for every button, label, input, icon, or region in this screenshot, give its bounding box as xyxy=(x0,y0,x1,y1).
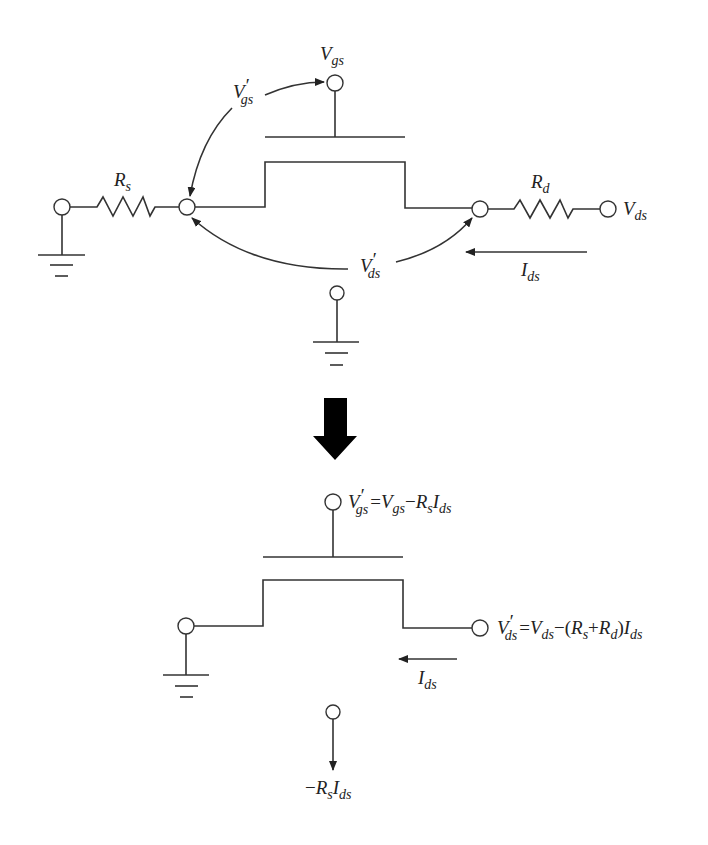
gate-node-equivalent xyxy=(325,494,341,510)
vds-label: Vds xyxy=(623,198,648,223)
vds-terminal-node xyxy=(600,201,616,217)
vgs-label: Vgs xyxy=(320,43,345,68)
top-circuit: Rs Vgs V′gs V′ds Rd Vds Ids xyxy=(38,43,648,365)
ids-label-equivalent: Ids xyxy=(417,667,437,692)
left-ground-symbol xyxy=(38,215,85,276)
body-voltage-label: −RsIds xyxy=(305,777,352,802)
source-node xyxy=(179,199,195,215)
vgs-prime-equation: V′gs=Vgs−RsIds xyxy=(348,485,452,517)
left-terminal-node xyxy=(54,199,70,215)
rd-label: Rd xyxy=(530,171,551,196)
gate-node xyxy=(327,75,343,91)
vgs-prime-arrow-to-gate xyxy=(265,82,324,95)
source-ground-symbol xyxy=(163,634,209,697)
drain-resistor xyxy=(488,200,600,218)
body-ground-symbol xyxy=(313,300,359,365)
mosfet-diagram: Rs Vgs V′gs V′ds Rd Vds Ids xyxy=(0,0,708,845)
source-node-equivalent xyxy=(178,618,194,634)
body-node-equivalent xyxy=(326,705,340,719)
drain-node-equivalent xyxy=(472,620,488,636)
rs-label: Rs xyxy=(113,169,132,194)
vgs-prime-label: V′gs xyxy=(233,75,254,107)
vds-prime-label: V′ds xyxy=(360,249,381,281)
vgs-prime-arrow-to-source xyxy=(190,108,232,196)
vds-prime-arrow-to-drain xyxy=(396,218,472,262)
drain-node xyxy=(472,201,488,217)
body-node xyxy=(330,286,344,300)
source-resistor xyxy=(70,197,179,216)
mosfet-channel xyxy=(195,162,472,208)
mosfet-channel-equivalent xyxy=(194,580,472,628)
vds-prime-arrow-to-source xyxy=(192,218,348,269)
bottom-circuit: V′gs=Vgs−RsIds V′ds=Vds−(Rs+Rd)Ids Ids −… xyxy=(163,485,643,802)
vds-prime-equation: V′ds=Vds−(Rs+Rd)Ids xyxy=(497,611,643,643)
down-arrow-icon xyxy=(313,398,357,460)
ids-label: Ids xyxy=(520,259,540,284)
